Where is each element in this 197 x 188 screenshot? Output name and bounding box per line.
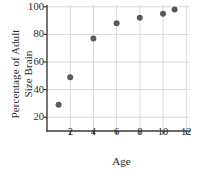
data-point bbox=[160, 11, 166, 17]
x-axis-title: Age bbox=[0, 155, 197, 167]
x-tick-label-8: 8 bbox=[130, 126, 150, 138]
data-point bbox=[67, 74, 73, 80]
data-point bbox=[56, 102, 62, 108]
scatter-plot-figure: Percentage of Adult Size Brain 100 80 60… bbox=[0, 0, 197, 188]
data-point bbox=[137, 15, 143, 21]
data-point bbox=[172, 7, 178, 13]
x-tick-label-4: 4 bbox=[84, 126, 104, 138]
x-tick-label-12: 12 bbox=[176, 126, 196, 138]
x-tick-label-10: 10 bbox=[153, 126, 173, 138]
data-point bbox=[114, 20, 120, 26]
x-tick-label-2: 2 bbox=[60, 126, 80, 138]
data-point bbox=[90, 36, 96, 42]
x-tick-label-6: 6 bbox=[107, 126, 127, 138]
vertical-gridlines bbox=[70, 5, 186, 131]
x-axis-title-text: Age bbox=[112, 155, 131, 167]
x-axis-tick-labels: 2 4 6 8 10 12 bbox=[0, 126, 197, 142]
